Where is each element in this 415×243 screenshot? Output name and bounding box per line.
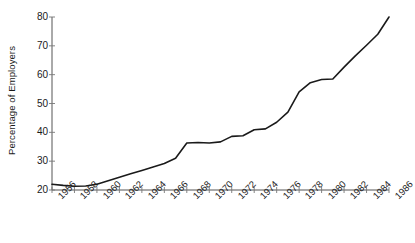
x-axis-tick-label: 1966 — [168, 194, 175, 201]
x-axis-tick-label: 1960 — [101, 194, 108, 201]
data-line-percentage-of-employers — [52, 17, 389, 186]
chart-axes — [49, 17, 389, 193]
x-axis-tick-label: 1958 — [78, 194, 85, 201]
x-axis-tick-label: 1964 — [146, 194, 153, 201]
x-axis-tick-label: 1968 — [191, 194, 198, 201]
x-axis-tick-label: 1982 — [348, 194, 355, 201]
x-axis-tick-label: 1972 — [236, 194, 243, 201]
x-axis-tick-labels: 1956195819601962196419661968197019721974… — [0, 194, 396, 243]
x-axis-tick-label: 1980 — [326, 194, 333, 201]
x-axis-tick-label: 1974 — [258, 194, 265, 201]
x-axis-tick-label: 1978 — [303, 194, 310, 201]
x-axis-tick-label: 1986 — [393, 194, 400, 201]
x-axis-tick-label: 1956 — [56, 194, 63, 201]
x-axis-tick-label: 1984 — [371, 194, 378, 201]
x-axis-tick-label: 1962 — [123, 194, 130, 201]
chart-series-group — [52, 17, 389, 186]
x-axis-tick-label: 1970 — [213, 194, 220, 201]
x-axis-tick-label: 1976 — [281, 194, 288, 201]
